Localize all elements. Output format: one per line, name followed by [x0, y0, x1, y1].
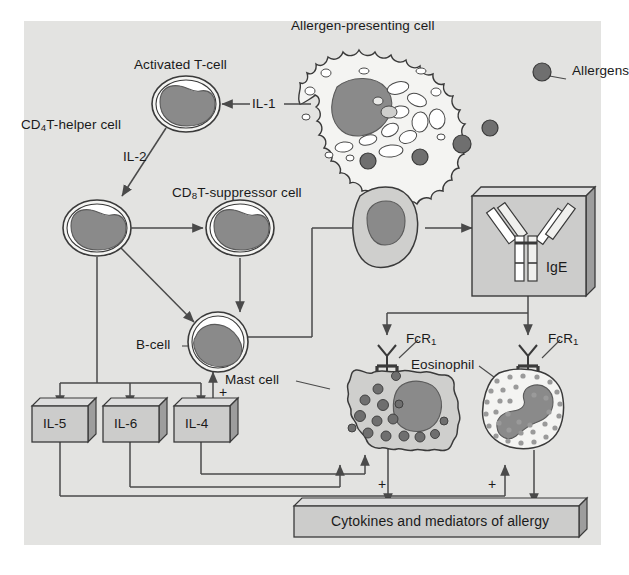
edge-il6-mastcell: [130, 442, 340, 487]
label-allergens: Allergens: [572, 64, 629, 78]
edge-cd4-bcell: [120, 247, 194, 322]
allergen-dot: [533, 63, 551, 81]
ige-box: [472, 187, 595, 296]
allergen-presenting-cell: [299, 50, 466, 206]
cd4-t-helper-cell: [63, 200, 131, 256]
cd8-prefix: CD: [172, 185, 192, 200]
label-fcr1-mast: FcR1: [406, 332, 437, 347]
label-mast-cell: Mast cell: [225, 373, 279, 387]
allergen-dot: [482, 120, 498, 136]
plus-il4: +: [219, 385, 227, 399]
label-il-1: IL-1: [252, 97, 276, 111]
cd4-suffix: T-helper cell: [46, 117, 121, 132]
fcr1-subscript: 1: [573, 336, 579, 347]
cd8-t-suppressor-cell: [206, 200, 274, 256]
edge-cd4-il-bus: [60, 257, 201, 406]
label-ige: IgE: [546, 260, 567, 274]
label-il-6: IL-6: [114, 417, 137, 431]
fcr1-subscript: 1: [431, 336, 437, 347]
cd4-prefix: CD: [21, 117, 41, 132]
label-il-2: IL-2: [123, 150, 147, 164]
label-cd4-t-helper-cell: CD4T-helper cell: [21, 118, 121, 133]
label-activated-t-cell: Activated T-cell: [134, 58, 227, 72]
b-cell: [188, 312, 248, 372]
label-eosinophil: Eosinophil: [411, 358, 474, 372]
label-il-5: IL-5: [43, 417, 66, 431]
label-fcr1-eosinophil: FcR1: [548, 332, 579, 347]
eosinophil: [483, 369, 564, 449]
fcr1-prefix: FcR: [548, 331, 573, 346]
plus-il6: +: [378, 477, 386, 491]
cd8-suffix: T-suppressor cell: [197, 185, 302, 200]
activated-t-cell: [152, 76, 220, 132]
mast-cell: [347, 370, 460, 451]
label-b-cell: B-cell: [136, 338, 170, 352]
allergen-dot: [412, 149, 428, 165]
label-il-4: IL-4: [185, 417, 208, 431]
plasma-cell: [353, 187, 418, 267]
label-cd8-t-suppressor-cell: CD8T-suppressor cell: [172, 186, 302, 201]
allergen-dot: [453, 135, 471, 153]
fcr1-prefix: FcR: [406, 331, 431, 346]
plus-il5: +: [488, 477, 496, 491]
label-cytokines-bar: Cytokines and mediators of allergy: [331, 514, 549, 528]
allergen-dot: [360, 153, 376, 169]
label-allergen-presenting-cell: Allergen-presenting cell: [291, 19, 434, 33]
edge-ige-receptors: [387, 296, 528, 335]
